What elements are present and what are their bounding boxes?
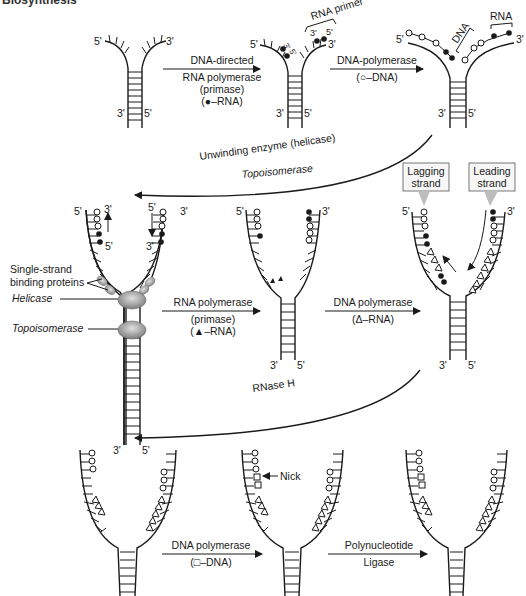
svg-text:(○–DNA): (○–DNA) <box>356 71 397 83</box>
lagging-strand-callout: Lagging strand <box>403 163 449 206</box>
svg-text:DNA polymerase: DNA polymerase <box>334 296 413 308</box>
step-primase: DNA-directed RNA polymerase (primase) (●… <box>163 54 262 107</box>
svg-text:3': 3' <box>270 359 278 371</box>
svg-text:RNA: RNA <box>490 10 512 22</box>
svg-text:3': 3' <box>180 205 188 217</box>
svg-text:RNA polymerase: RNA polymerase <box>174 296 253 308</box>
helicase-icon <box>118 291 146 309</box>
svg-text:Polynucleotide: Polynucleotide <box>345 539 413 551</box>
svg-text:Topoisomerase: Topoisomerase <box>241 162 313 180</box>
cut-title: Biosynthesis <box>2 0 77 7</box>
svg-text:3': 3' <box>328 38 336 50</box>
svg-text:5': 5' <box>304 107 312 119</box>
fork-7-primers-removed <box>80 450 176 596</box>
svg-text:(Δ–RNA): (Δ–RNA) <box>352 313 394 325</box>
svg-text:3': 3' <box>113 444 121 456</box>
svg-text:5': 5' <box>105 240 113 252</box>
svg-text:Leading: Leading <box>473 165 511 177</box>
svg-text:3': 3' <box>322 205 330 217</box>
svg-text:strand: strand <box>411 177 440 189</box>
svg-text:Unwinding enzyme (helicase): Unwinding enzyme (helicase) <box>199 131 336 162</box>
svg-text:3': 3' <box>438 107 446 119</box>
transition-rnase-h: RNase H <box>135 370 420 438</box>
svg-text:5': 5' <box>74 205 82 217</box>
fork-8-gap-filled: Nick <box>242 450 343 596</box>
svg-text:(▲–RNA): (▲–RNA) <box>190 325 235 337</box>
svg-text:5': 5' <box>144 107 152 119</box>
svg-text:5': 5' <box>250 38 258 50</box>
svg-text:Ligase: Ligase <box>364 556 395 568</box>
svg-text:(●–RNA): (●–RNA) <box>201 95 242 107</box>
svg-text:3': 3' <box>439 359 447 371</box>
leading-strand-callout: Leading strand <box>469 163 515 206</box>
svg-text:(primase): (primase) <box>191 313 235 325</box>
svg-text:3': 3' <box>507 205 515 217</box>
topoisomerase-icon <box>118 321 146 339</box>
svg-text:5': 5' <box>468 359 476 371</box>
svg-text:RNA polymerase: RNA polymerase <box>183 71 262 83</box>
svg-text:DNA-directed: DNA-directed <box>190 54 253 66</box>
svg-text:5': 5' <box>236 205 244 217</box>
svg-text:5': 5' <box>142 444 150 456</box>
transition-helicase: Unwinding enzyme (helicase) Topoisomeras… <box>135 131 432 196</box>
svg-text:5': 5' <box>297 359 305 371</box>
fork-6-lagging-leading: 5' 3' 3' 5' <box>402 205 515 371</box>
svg-text:3': 3' <box>104 203 112 215</box>
svg-text:3': 3' <box>516 33 524 45</box>
svg-text:binding proteins: binding proteins <box>10 276 84 288</box>
svg-text:5': 5' <box>148 201 156 213</box>
dna-replication-diagram: Biosynthesis 5' 3' 3' 5' DNA <box>0 0 526 596</box>
svg-text:Helicase: Helicase <box>12 292 52 304</box>
svg-text:3': 3' <box>310 28 317 38</box>
svg-text:RNase H: RNase H <box>252 376 296 394</box>
svg-text:Topoisomerase: Topoisomerase <box>12 322 84 334</box>
svg-text:5': 5' <box>402 205 410 217</box>
step-dna-polymerase-2: DNA polymerase (Δ–RNA) <box>325 296 420 325</box>
nick-label: Nick <box>280 470 301 482</box>
svg-text:3': 3' <box>166 35 174 47</box>
svg-text:3': 3' <box>276 107 284 119</box>
svg-text:Lagging: Lagging <box>407 165 445 177</box>
svg-text:RNA primer: RNA primer <box>309 0 365 22</box>
svg-text:3': 3' <box>146 240 154 252</box>
svg-text:5': 5' <box>396 33 404 45</box>
svg-text:strand: strand <box>477 177 506 189</box>
step-dna-polymerase-1: DNA-polymerase (○–DNA) <box>330 54 423 83</box>
fork-1-parental: 5' 3' 3' 5' <box>94 35 174 128</box>
svg-text:5': 5' <box>94 35 102 47</box>
svg-text:DNA polymerase: DNA polymerase <box>172 539 251 551</box>
fork-5-new-primers: 5' 3' 3' 5' <box>236 205 330 371</box>
svg-text:Single-strand: Single-strand <box>10 263 72 275</box>
fork-9-ligated <box>406 450 507 596</box>
step-ligase: Polynucleotide Ligase <box>328 539 427 568</box>
svg-text:(□–DNA): (□–DNA) <box>190 556 231 568</box>
step-dna-polymerase-3: DNA polymerase (□–DNA) <box>162 539 262 568</box>
svg-text:3': 3' <box>117 107 125 119</box>
svg-text:5': 5' <box>326 27 333 37</box>
step-primase-2: RNA polymerase (primase) (▲–RNA) <box>162 296 260 337</box>
svg-text:DNA: DNA <box>449 20 472 45</box>
svg-text:(primase): (primase) <box>200 83 244 95</box>
svg-text:DNA-polymerase: DNA-polymerase <box>337 54 417 66</box>
svg-text:5': 5' <box>468 107 476 119</box>
